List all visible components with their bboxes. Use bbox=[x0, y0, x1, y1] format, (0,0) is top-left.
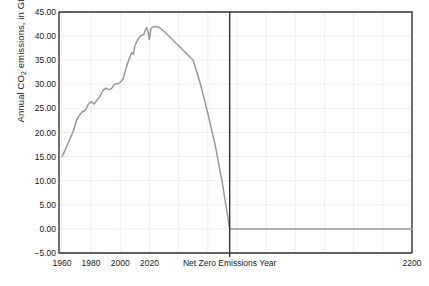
gridlines bbox=[59, 12, 412, 253]
chart-svg bbox=[0, 0, 429, 286]
chart-container: Annual CO2 emissions, in GtCO2 −5.000.00… bbox=[0, 0, 429, 286]
